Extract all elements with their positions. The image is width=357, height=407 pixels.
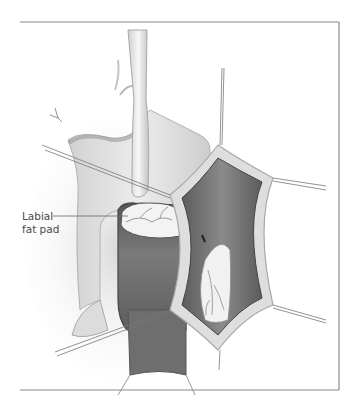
label-labial-fat-pad-line2: fat pad [22,223,59,235]
label-labial-fat-pad-line1: Labial [22,210,53,222]
lower-retracted-band [118,310,195,395]
surgical-illustration [0,0,357,407]
labial-fat-pad [121,203,180,238]
